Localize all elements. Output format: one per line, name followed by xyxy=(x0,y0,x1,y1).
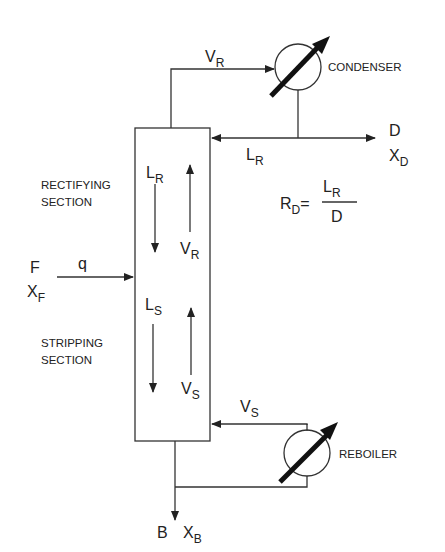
vapor-strip-label: VS xyxy=(181,380,200,402)
boilup-line xyxy=(212,424,307,425)
reflux-ratio-lhs: RD= xyxy=(280,195,310,217)
condenser-control-arrow xyxy=(271,45,320,96)
bottoms-label: B xyxy=(157,524,168,541)
boilup-label: VS xyxy=(240,398,259,420)
condenser-label: CONDENSER xyxy=(328,61,401,73)
distillation-diagram: VR CONDENSER LR D XD RD= LR D RECTIFYING… xyxy=(0,0,445,552)
vapor-top-label: VR xyxy=(205,48,225,70)
stripping-label-1: STRIPPING xyxy=(41,337,103,349)
liquid-strip-label: LS xyxy=(145,296,162,318)
distillate-composition-label: XD xyxy=(389,147,409,169)
vapor-rect-label: VR xyxy=(180,240,200,262)
reflux-ratio-denominator: D xyxy=(331,208,343,225)
liquid-rect-label: LR xyxy=(146,164,164,186)
reflux-ratio-numerator: LR xyxy=(323,178,341,200)
stripping-label-2: SECTION xyxy=(41,354,92,366)
vapor-top-line xyxy=(171,69,274,128)
feed-label: F xyxy=(30,259,40,276)
rectifying-label-1: RECTIFYING xyxy=(41,179,111,191)
rectifying-label-2: SECTION xyxy=(41,196,92,208)
reboiler-control-arrow xyxy=(280,432,330,482)
distillate-label: D xyxy=(389,122,401,139)
feed-composition-label: XF xyxy=(27,283,45,305)
reflux-label: LR xyxy=(246,146,264,168)
bottoms-composition-label: XB xyxy=(183,524,202,546)
diagram-svg: VR CONDENSER LR D XD RD= LR D RECTIFYING… xyxy=(0,0,445,552)
feed-quality-label: q xyxy=(78,255,87,272)
reboiler-label: REBOILER xyxy=(339,448,397,460)
